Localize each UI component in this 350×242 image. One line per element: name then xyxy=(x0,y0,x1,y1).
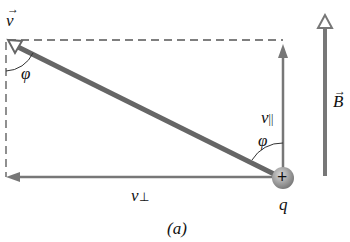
phi-bottom-label: φ xyxy=(258,132,267,149)
phi-top-label: φ xyxy=(21,65,30,82)
v-perp-label: v⊥ xyxy=(131,187,149,204)
magnetic-field-arrow xyxy=(318,15,332,176)
charge-label: q xyxy=(279,196,288,213)
v-parallel-arrow xyxy=(278,44,288,170)
velocity-arrow xyxy=(8,40,280,177)
velocity-label: → v xyxy=(6,12,14,29)
phi-arc-bottom xyxy=(252,143,283,160)
charge-sign: + xyxy=(277,168,287,186)
v-parallel-label: v|| xyxy=(261,109,273,126)
field-label: → B xyxy=(333,93,343,110)
figure-caption: (a) xyxy=(167,220,187,237)
velocity-decomposition-diagram xyxy=(0,0,350,242)
v-perp-arrow xyxy=(6,172,280,182)
